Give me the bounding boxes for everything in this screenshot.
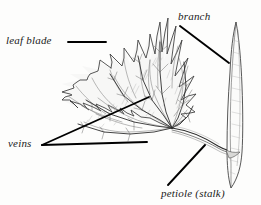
botanical-figure: leaf blade branch veins petiole (stalk) <box>0 0 261 205</box>
leader-branch <box>180 26 229 63</box>
label-branch: branch <box>178 11 210 22</box>
branch <box>226 22 243 188</box>
leader-veins-lower <box>42 142 147 145</box>
label-petiole: petiole (stalk) <box>161 188 225 199</box>
leaf-illustration <box>0 0 261 205</box>
label-leaf-blade: leaf blade <box>6 35 52 46</box>
leader-petiole <box>168 145 205 185</box>
label-veins: veins <box>8 138 32 149</box>
